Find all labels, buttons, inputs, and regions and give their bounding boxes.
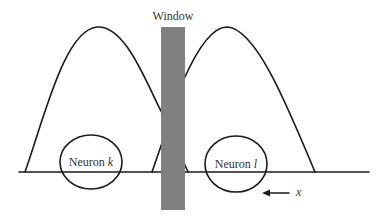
neuron-k-name: Neuron	[69, 155, 105, 169]
curve-segment-left-of-window	[152, 143, 162, 172]
neuron-l-index: l	[254, 157, 258, 171]
window-bar	[161, 27, 185, 210]
neuron-l-name: Neuron	[215, 157, 251, 171]
neuron-l: Neuron l	[205, 136, 267, 192]
neuron-k-index: k	[108, 155, 114, 169]
window-label: Window	[153, 9, 194, 23]
neuron-k-label: Neuron k	[69, 155, 114, 169]
neuron-k: Neuron k	[60, 135, 122, 189]
arrow-left-icon	[262, 190, 270, 197]
receptive-field-curve-k	[25, 27, 162, 172]
direction-label: x	[295, 185, 302, 199]
receptive-field-curve-l	[184, 27, 315, 172]
neuron-l-label: Neuron l	[215, 157, 258, 171]
direction-indicator: x	[262, 185, 302, 199]
neuron-window-diagram: Neuron k Neuron l Window x	[0, 0, 387, 223]
